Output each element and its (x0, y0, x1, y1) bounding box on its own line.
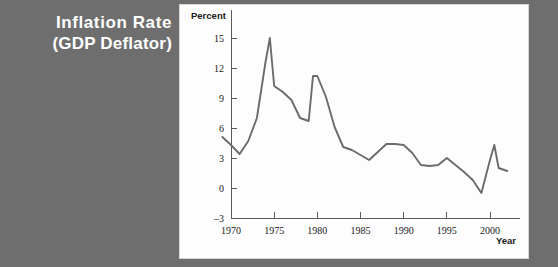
chart-panel: Percent –3036912151970197519801985199019… (180, 5, 528, 258)
svg-text:12: 12 (214, 63, 224, 74)
line-chart: –3036912151970197519801985199019952000 (180, 5, 528, 258)
chart-title: Inflation Rate (GDP Deflator) (0, 12, 178, 54)
plot-area: Percent –3036912151970197519801985199019… (180, 5, 528, 258)
x-axis-label: Year (496, 235, 516, 246)
svg-text:1995: 1995 (437, 225, 457, 236)
data-series-line (222, 38, 507, 193)
svg-text:1980: 1980 (307, 225, 327, 236)
svg-text:15: 15 (214, 33, 224, 44)
svg-text:6: 6 (219, 123, 224, 134)
svg-text:0: 0 (219, 183, 224, 194)
svg-text:1970: 1970 (221, 225, 241, 236)
chart-title-line-2: (GDP Deflator) (0, 33, 172, 54)
svg-text:1990: 1990 (394, 225, 414, 236)
svg-text:1985: 1985 (351, 225, 371, 236)
svg-text:9: 9 (219, 93, 224, 104)
svg-text:1975: 1975 (264, 225, 284, 236)
svg-text:–3: –3 (213, 213, 224, 224)
chart-title-line-1: Inflation Rate (0, 12, 172, 33)
svg-text:3: 3 (219, 153, 224, 164)
screenshot-root: Inflation Rate (GDP Deflator) Percent –3… (0, 0, 558, 267)
